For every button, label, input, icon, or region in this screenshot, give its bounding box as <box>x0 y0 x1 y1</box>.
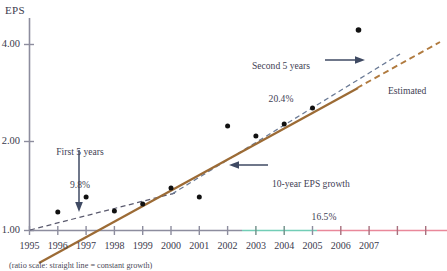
eps-growth-chart: EPS 4.00 2.00 1.00 1995 1996 1997 1998 1… <box>0 0 447 271</box>
data-point <box>140 202 145 207</box>
data-point <box>253 134 258 139</box>
y-tick-label-2: 2.00 <box>0 135 20 147</box>
annotation-second-5-years-line2: 20.4% <box>240 94 322 105</box>
y-axis-title: EPS <box>5 4 25 16</box>
annotation-10-year-growth-line2: 16.5% <box>272 212 376 223</box>
data-point <box>197 195 202 200</box>
annotation-second-5-years: Second 5 years 20.4% <box>240 40 322 126</box>
annotation-10-year-growth-line1: 10-year EPS growth <box>272 179 390 190</box>
arrow-10-year-growth <box>229 161 268 169</box>
annotation-first-5-years: First 5 years 9.8% <box>42 126 118 212</box>
annotation-10-year-growth: 10-year EPS growth 16.5% <box>272 158 390 244</box>
data-point <box>225 124 230 129</box>
annotation-first-5-years-line1: First 5 years <box>42 147 118 158</box>
chart-caption: (ratio scale: straight line = constant g… <box>9 261 152 270</box>
annotation-estimated: Estimated <box>388 86 446 97</box>
annotation-first-5-years-line2: 9.8% <box>42 180 118 191</box>
data-point <box>356 27 362 33</box>
data-point <box>169 186 174 191</box>
y-tick-label-1: 1.00 <box>0 224 20 236</box>
y-tick-label-4: 4.00 <box>0 38 20 50</box>
annotation-second-5-years-line1: Second 5 years <box>240 61 322 72</box>
trend-estimated-dashed <box>357 42 440 88</box>
arrow-second-5-years <box>325 56 365 64</box>
